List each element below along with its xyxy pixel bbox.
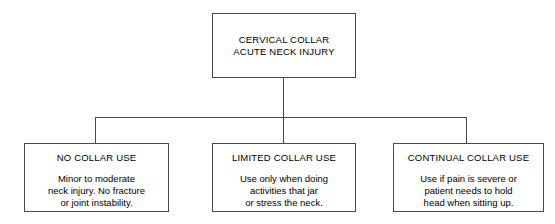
connector-horizontal-bar — [95, 117, 467, 118]
connector-left-branch — [95, 117, 96, 143]
flowchart-canvas: CERVICAL COLLAR ACUTE NECK INJURY NO COL… — [0, 0, 555, 224]
node-body-no-collar-use: Minor to moderate neck injury. No fractu… — [48, 173, 145, 209]
node-heading-continual-collar-use: CONTINUAL COLLAR USE — [408, 152, 529, 164]
connector-middle-branch — [283, 117, 284, 143]
node-heading-limited-collar-use: LIMITED COLLAR USE — [232, 152, 336, 164]
flowchart-node-limited-collar-use: LIMITED COLLAR USE Use only when doing a… — [212, 143, 356, 212]
flowchart-root-node: CERVICAL COLLAR ACUTE NECK INJURY — [212, 13, 356, 78]
node-heading-no-collar-use: NO COLLAR USE — [57, 152, 137, 164]
root-node-title: CERVICAL COLLAR ACUTE NECK INJURY — [233, 34, 334, 58]
node-body-limited-collar-use: Use only when doing activities that jar … — [240, 173, 328, 209]
node-body-continual-collar-use: Use if pain is severe or patient needs t… — [420, 173, 517, 209]
connector-root-vertical — [283, 78, 284, 118]
flowchart-node-no-collar-use: NO COLLAR USE Minor to moderate neck inj… — [24, 143, 169, 212]
flowchart-node-continual-collar-use: CONTINUAL COLLAR USE Use if pain is seve… — [393, 143, 544, 212]
connector-right-branch — [466, 117, 467, 143]
